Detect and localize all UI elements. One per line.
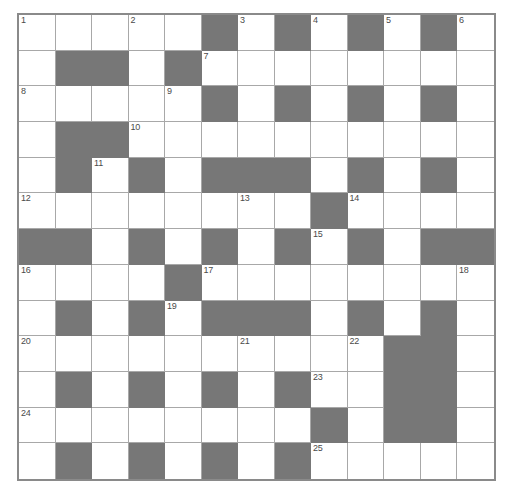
- crossword-cell[interactable]: [384, 265, 421, 301]
- crossword-cell[interactable]: 12: [19, 193, 56, 229]
- crossword-cell[interactable]: [275, 122, 312, 158]
- crossword-cell[interactable]: [129, 86, 166, 122]
- crossword-cell[interactable]: [202, 122, 239, 158]
- crossword-cell[interactable]: [165, 15, 202, 51]
- crossword-cell[interactable]: [165, 336, 202, 372]
- crossword-cell[interactable]: [19, 443, 56, 479]
- crossword-cell[interactable]: [202, 193, 239, 229]
- crossword-cell[interactable]: [457, 408, 494, 444]
- crossword-cell[interactable]: 11: [92, 158, 129, 194]
- crossword-cell[interactable]: [56, 408, 93, 444]
- crossword-cell[interactable]: [92, 443, 129, 479]
- crossword-cell[interactable]: [56, 265, 93, 301]
- crossword-cell[interactable]: [348, 122, 385, 158]
- crossword-cell[interactable]: [238, 408, 275, 444]
- crossword-cell[interactable]: [384, 122, 421, 158]
- crossword-cell[interactable]: 16: [19, 265, 56, 301]
- crossword-cell[interactable]: [311, 51, 348, 87]
- crossword-cell[interactable]: [238, 51, 275, 87]
- crossword-cell[interactable]: [311, 265, 348, 301]
- crossword-cell[interactable]: [457, 158, 494, 194]
- crossword-cell[interactable]: [457, 336, 494, 372]
- crossword-cell[interactable]: [19, 301, 56, 337]
- crossword-cell[interactable]: [165, 443, 202, 479]
- crossword-cell[interactable]: [129, 51, 166, 87]
- crossword-cell[interactable]: [56, 193, 93, 229]
- crossword-cell[interactable]: [129, 336, 166, 372]
- crossword-cell[interactable]: [129, 265, 166, 301]
- crossword-cell[interactable]: [275, 265, 312, 301]
- crossword-cell[interactable]: [92, 265, 129, 301]
- crossword-cell[interactable]: [275, 51, 312, 87]
- crossword-cell[interactable]: 5: [384, 15, 421, 51]
- crossword-cell[interactable]: [311, 336, 348, 372]
- crossword-cell[interactable]: 1: [19, 15, 56, 51]
- crossword-cell[interactable]: [457, 443, 494, 479]
- crossword-cell[interactable]: [348, 372, 385, 408]
- crossword-cell[interactable]: [19, 51, 56, 87]
- crossword-cell[interactable]: [238, 122, 275, 158]
- crossword-cell[interactable]: [165, 229, 202, 265]
- crossword-cell[interactable]: [92, 229, 129, 265]
- crossword-cell[interactable]: [92, 408, 129, 444]
- crossword-cell[interactable]: [165, 193, 202, 229]
- crossword-cell[interactable]: 15: [311, 229, 348, 265]
- crossword-cell[interactable]: [275, 336, 312, 372]
- crossword-cell[interactable]: [19, 372, 56, 408]
- crossword-cell[interactable]: [421, 193, 458, 229]
- crossword-cell[interactable]: 4: [311, 15, 348, 51]
- crossword-cell[interactable]: [348, 265, 385, 301]
- crossword-cell[interactable]: [457, 122, 494, 158]
- crossword-cell[interactable]: [92, 301, 129, 337]
- crossword-cell[interactable]: [311, 86, 348, 122]
- crossword-cell[interactable]: 8: [19, 86, 56, 122]
- crossword-cell[interactable]: 25: [311, 443, 348, 479]
- crossword-cell[interactable]: [92, 336, 129, 372]
- crossword-cell[interactable]: 13: [238, 193, 275, 229]
- crossword-cell[interactable]: [384, 158, 421, 194]
- crossword-cell[interactable]: [457, 86, 494, 122]
- crossword-cell[interactable]: [165, 372, 202, 408]
- crossword-cell[interactable]: [421, 443, 458, 479]
- crossword-cell[interactable]: [92, 86, 129, 122]
- crossword-cell[interactable]: [238, 372, 275, 408]
- crossword-cell[interactable]: [238, 265, 275, 301]
- crossword-cell[interactable]: 18: [457, 265, 494, 301]
- crossword-cell[interactable]: [457, 193, 494, 229]
- crossword-cell[interactable]: [384, 301, 421, 337]
- crossword-cell[interactable]: [19, 158, 56, 194]
- crossword-cell[interactable]: 10: [129, 122, 166, 158]
- crossword-cell[interactable]: 23: [311, 372, 348, 408]
- crossword-cell[interactable]: [348, 443, 385, 479]
- crossword-cell[interactable]: 14: [348, 193, 385, 229]
- crossword-cell[interactable]: [202, 408, 239, 444]
- crossword-cell[interactable]: [348, 408, 385, 444]
- crossword-cell[interactable]: 20: [19, 336, 56, 372]
- crossword-cell[interactable]: [129, 193, 166, 229]
- crossword-cell[interactable]: [348, 51, 385, 87]
- crossword-cell[interactable]: [92, 372, 129, 408]
- crossword-grid[interactable]: 1234567891011121314151617181920212223242…: [17, 13, 496, 481]
- crossword-cell[interactable]: [92, 15, 129, 51]
- crossword-cell[interactable]: [421, 51, 458, 87]
- crossword-cell[interactable]: 2: [129, 15, 166, 51]
- crossword-cell[interactable]: 22: [348, 336, 385, 372]
- crossword-cell[interactable]: [56, 86, 93, 122]
- crossword-cell[interactable]: [56, 336, 93, 372]
- crossword-cell[interactable]: 17: [202, 265, 239, 301]
- crossword-cell[interactable]: [421, 265, 458, 301]
- crossword-cell[interactable]: [457, 372, 494, 408]
- crossword-cell[interactable]: [165, 158, 202, 194]
- crossword-cell[interactable]: [202, 336, 239, 372]
- crossword-cell[interactable]: [129, 408, 166, 444]
- crossword-cell[interactable]: [238, 229, 275, 265]
- crossword-cell[interactable]: [165, 408, 202, 444]
- crossword-cell[interactable]: [384, 86, 421, 122]
- crossword-cell[interactable]: [311, 301, 348, 337]
- crossword-cell[interactable]: [384, 443, 421, 479]
- crossword-cell[interactable]: [457, 301, 494, 337]
- crossword-cell[interactable]: 21: [238, 336, 275, 372]
- crossword-cell[interactable]: 7: [202, 51, 239, 87]
- crossword-cell[interactable]: [311, 122, 348, 158]
- crossword-cell[interactable]: [238, 443, 275, 479]
